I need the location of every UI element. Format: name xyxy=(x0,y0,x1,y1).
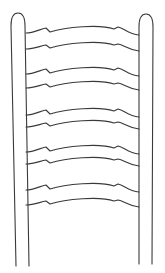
slat-1-top-edge xyxy=(26,26,139,35)
slat-3-top-edge xyxy=(26,108,139,117)
slat-2-top-edge xyxy=(26,67,139,76)
slat-3-bottom-edge xyxy=(26,120,139,129)
right-post xyxy=(139,14,153,264)
left-post xyxy=(11,13,29,266)
slat-4-top-edge xyxy=(26,145,139,154)
chair-back-drawing xyxy=(0,0,165,273)
slat-5-top-edge xyxy=(26,183,139,192)
slat-4-bottom-edge xyxy=(26,157,139,166)
chair-back-illustration xyxy=(0,0,165,273)
slat-1-bottom-edge xyxy=(26,42,139,51)
slat-5-bottom-edge xyxy=(26,198,139,207)
slats-group xyxy=(26,26,139,207)
slat-2-bottom-edge xyxy=(26,81,139,90)
